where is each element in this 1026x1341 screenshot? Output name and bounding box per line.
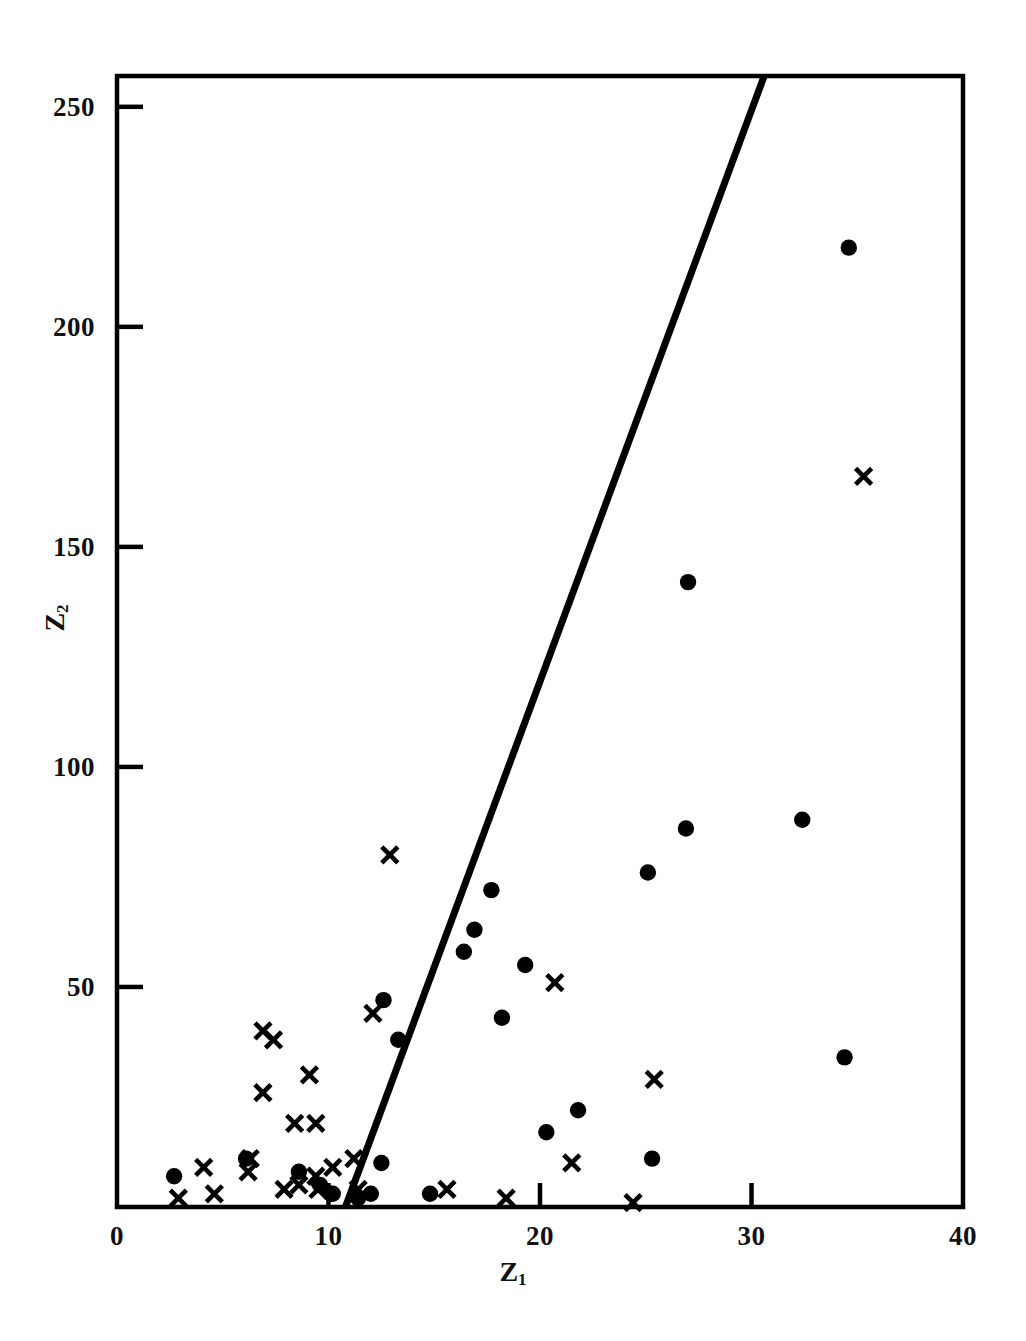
y-tick-label: 200 [53, 311, 95, 342]
y-tick-label: 250 [53, 91, 95, 122]
data-point-cross [255, 1085, 271, 1101]
plot-canvas [0, 0, 1026, 1341]
y-axis-title-text: Z [39, 613, 70, 632]
data-point-cross [382, 847, 398, 863]
data-point-circle [640, 864, 656, 880]
data-point-cross [325, 1159, 341, 1175]
data-point-circle [538, 1124, 554, 1140]
x-tick-label: 40 [949, 1221, 977, 1252]
x-tick-label: 20 [526, 1221, 554, 1252]
data-point-circle [836, 1049, 852, 1065]
data-point-circle [841, 239, 857, 255]
data-point-circle [291, 1164, 307, 1180]
data-point-cross [365, 1005, 381, 1021]
x-axis-title: Z1 [499, 1256, 526, 1290]
y-tick-label: 150 [53, 531, 95, 562]
data-point-cross [276, 1181, 292, 1197]
data-point-cross [170, 1190, 186, 1206]
y-axis-title-subscript: 2 [53, 604, 72, 613]
boundary-line [345, 76, 764, 1207]
data-point-circle [373, 1155, 389, 1171]
data-point-circle [494, 1010, 510, 1026]
data-point-cross [196, 1159, 212, 1175]
y-axis-title: Z2 [39, 604, 73, 631]
data-point-circle [570, 1102, 586, 1118]
x-axis-title-subscript: 1 [518, 1270, 527, 1289]
y-tick-label: 50 [67, 971, 95, 1002]
y-tick-label: 100 [53, 751, 95, 782]
cross-markers [170, 468, 871, 1210]
x-tick-label: 10 [315, 1221, 343, 1252]
data-point-cross [498, 1190, 514, 1206]
data-point-cross [646, 1071, 662, 1087]
data-point-cross [346, 1151, 362, 1167]
data-point-circle [390, 1032, 406, 1048]
x-axis-title-text: Z [499, 1256, 518, 1287]
data-point-circle [238, 1150, 254, 1166]
data-point-circle [794, 812, 810, 828]
axes-frame [117, 76, 963, 1207]
data-point-circle [517, 957, 533, 973]
data-point-cross [564, 1155, 580, 1171]
data-point-cross [856, 468, 872, 484]
data-point-cross [206, 1186, 222, 1202]
data-point-circle [375, 992, 391, 1008]
scatter-plot-figure: Z1 Z2 01020304050100150200250 [0, 0, 1026, 1341]
data-point-cross [439, 1181, 455, 1197]
data-point-cross [547, 975, 563, 991]
data-point-circle [680, 574, 696, 590]
data-point-circle [678, 820, 694, 836]
data-point-cross [308, 1115, 324, 1131]
x-tick-label: 30 [738, 1221, 766, 1252]
boundary-line-stroke [345, 76, 764, 1207]
data-point-circle [166, 1168, 182, 1184]
data-point-circle [483, 882, 499, 898]
data-point-circle [466, 922, 482, 938]
axes-spines [117, 76, 963, 1207]
data-point-cross [266, 1032, 282, 1048]
x-tick-label: 0 [110, 1221, 124, 1252]
data-point-circle [644, 1150, 660, 1166]
circle-markers [166, 239, 857, 1206]
axis-ticks [117, 107, 752, 1207]
data-point-circle [456, 944, 472, 960]
data-point-circle [422, 1186, 438, 1202]
data-point-cross [301, 1067, 317, 1083]
data-point-cross [287, 1115, 303, 1131]
data-point-circle [325, 1186, 341, 1202]
data-point-circle [363, 1186, 379, 1202]
